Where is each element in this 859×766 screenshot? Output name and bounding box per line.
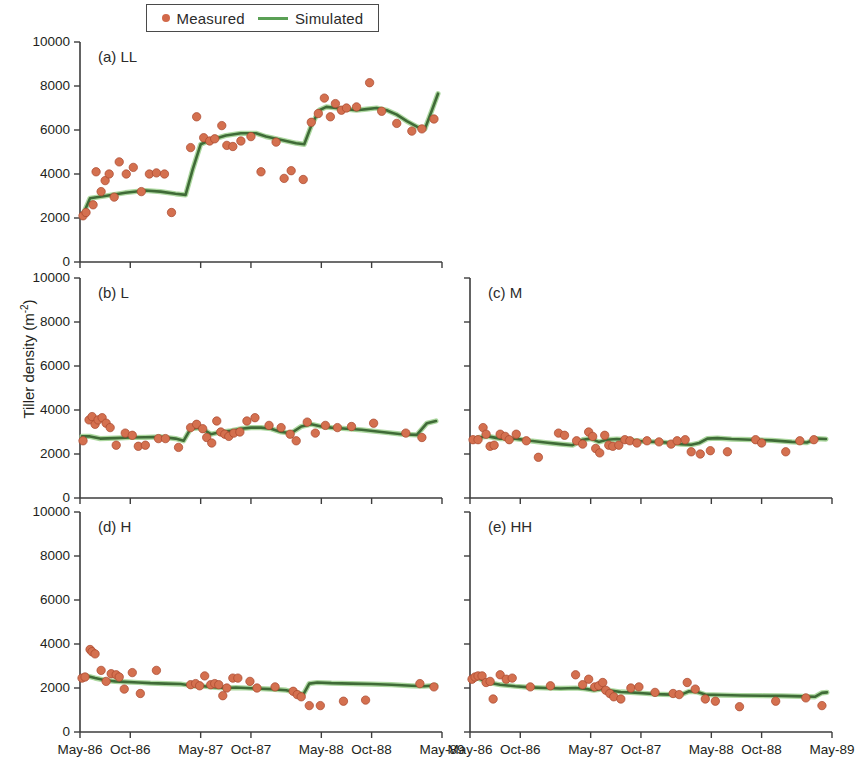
measured-point	[482, 430, 490, 438]
measured-point	[546, 682, 554, 690]
measured-point	[687, 448, 695, 456]
y-tick-label: 0	[8, 724, 70, 739]
measured-point	[79, 437, 87, 445]
panel-label-d: (d) H	[98, 518, 131, 535]
measured-point	[347, 422, 355, 430]
measured-point	[361, 696, 369, 704]
measured-point	[408, 127, 416, 135]
x-tick-label: Oct-87	[603, 742, 679, 757]
measured-point	[213, 417, 221, 425]
measured-point	[651, 688, 659, 696]
measured-point	[195, 682, 203, 690]
measured-point	[251, 414, 259, 422]
measured-point	[110, 193, 118, 201]
measured-point	[655, 438, 663, 446]
measured-point	[352, 103, 360, 111]
measured-point	[339, 697, 347, 705]
measured-point	[136, 689, 144, 697]
measured-point	[683, 678, 691, 686]
measured-point	[316, 701, 324, 709]
measured-point	[82, 208, 90, 216]
measured-point	[311, 429, 319, 437]
measured-point	[635, 683, 643, 691]
measured-point	[534, 453, 542, 461]
measured-point	[696, 450, 704, 458]
measured-point	[106, 423, 114, 431]
measured-point	[89, 201, 97, 209]
x-tick-label: Oct-86	[92, 742, 168, 757]
y-tick-label: 8000	[8, 78, 70, 93]
measured-point	[512, 430, 520, 438]
legend-label-measured: Measured	[177, 10, 245, 27]
panel-label-a: (a) LL	[98, 48, 137, 65]
measured-point	[701, 695, 709, 703]
measured-point	[218, 121, 226, 129]
measured-point	[247, 132, 255, 140]
measured-point	[303, 418, 311, 426]
measured-point	[192, 113, 200, 121]
measured-point	[486, 677, 494, 685]
measured-point	[277, 423, 285, 431]
measured-point	[681, 436, 689, 444]
measured-point	[152, 169, 160, 177]
measured-point	[160, 170, 168, 178]
measured-point	[474, 436, 482, 444]
measured-point	[102, 677, 110, 685]
measured-point	[723, 448, 731, 456]
y-tick-label: 0	[8, 254, 70, 269]
measured-point	[297, 693, 305, 701]
measured-point	[489, 695, 497, 703]
measured-point	[243, 417, 251, 425]
y-tick-label: 10000	[8, 270, 70, 285]
measured-point	[287, 167, 295, 175]
measured-point	[588, 432, 596, 440]
measured-point	[430, 683, 438, 691]
measured-point	[333, 423, 341, 431]
legend-entry-measured: Measured	[162, 10, 245, 27]
measured-point	[92, 168, 100, 176]
measured-point	[691, 685, 699, 693]
measured-point	[771, 697, 779, 705]
measured-point	[257, 168, 265, 176]
measured-point	[711, 697, 719, 705]
measured-point	[757, 439, 765, 447]
measured-point	[393, 119, 401, 127]
measured-point	[115, 673, 123, 681]
y-tick-label: 2000	[8, 680, 70, 695]
measured-point	[105, 170, 113, 178]
measured-point	[342, 104, 350, 112]
measured-point	[120, 685, 128, 693]
x-tick-label: Oct-87	[213, 742, 289, 757]
legend-label-simulated: Simulated	[295, 10, 364, 27]
x-tick-label: Oct-88	[724, 742, 800, 757]
measured-point	[706, 447, 714, 455]
measured-point	[167, 208, 175, 216]
measured-point	[246, 677, 254, 685]
panel-label-b: (b) L	[98, 284, 129, 301]
measured-point	[272, 138, 280, 146]
measured-point	[402, 429, 410, 437]
panel-label-c: (c) M	[488, 284, 522, 301]
measured-point	[673, 437, 681, 445]
measured-point	[299, 175, 307, 183]
measured-point	[377, 107, 385, 115]
measured-point	[234, 674, 242, 682]
measured-point	[578, 440, 586, 448]
y-tick-label: 4000	[8, 636, 70, 651]
measured-point	[91, 650, 99, 658]
measured-point	[331, 99, 339, 107]
measured-point	[271, 683, 279, 691]
measured-point	[208, 439, 216, 447]
x-tick-label: May-89	[794, 742, 859, 757]
measured-point	[571, 671, 579, 679]
measured-point	[522, 437, 530, 445]
measured-point	[599, 678, 607, 686]
y-tick-label: 6000	[8, 358, 70, 373]
measured-point	[122, 170, 130, 178]
measured-point	[418, 433, 426, 441]
measured-point	[307, 118, 315, 126]
measured-point	[508, 674, 516, 682]
measured-point	[782, 448, 790, 456]
measured-point	[490, 441, 498, 449]
